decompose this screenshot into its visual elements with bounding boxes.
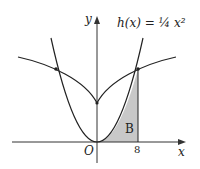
y-axis-label: y — [85, 12, 92, 26]
intersection-point-left — [54, 67, 58, 71]
x-tick-label: 8 — [134, 144, 140, 155]
intersection-point-right — [136, 67, 140, 71]
y-axis-arrow-icon — [94, 16, 100, 24]
x-axis-label: x — [178, 145, 185, 159]
cusp-point — [95, 101, 98, 104]
origin-label: O — [84, 144, 94, 158]
region-label: B — [125, 122, 134, 136]
function-label: h(x) = ¼ x² — [117, 16, 186, 30]
